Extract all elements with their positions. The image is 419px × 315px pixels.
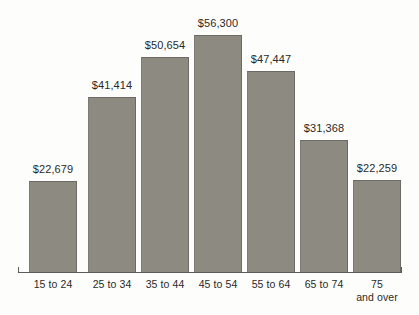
bar <box>353 180 401 272</box>
category-label-line1: 65 to 74 <box>295 278 353 291</box>
bar-value-label: $22,259 <box>353 162 401 174</box>
category-label: 25 to 34 <box>83 278 141 291</box>
category-label-line1: 45 to 54 <box>189 278 247 291</box>
x-axis-right-cap <box>401 267 402 273</box>
bar-chart: $22,679$41,414$50,654$56,300$47,447$31,3… <box>0 0 419 315</box>
category-label-line1: 15 to 24 <box>24 278 82 291</box>
category-label: 65 to 74 <box>295 278 353 291</box>
bar-value-label: $50,654 <box>141 39 189 51</box>
bar-value-label: $56,300 <box>194 17 242 29</box>
bar <box>300 140 348 272</box>
bar <box>88 97 136 272</box>
category-label-line1: 75 <box>348 278 406 291</box>
category-label: 75and over <box>348 278 406 304</box>
bar-value-label: $31,368 <box>300 122 348 134</box>
bar-value-label: $47,447 <box>247 53 295 65</box>
bar-value-label: $41,414 <box>88 79 136 91</box>
category-label: 55 to 64 <box>242 278 300 291</box>
x-axis-left-cap <box>18 267 19 273</box>
category-label-line2: and over <box>348 291 406 304</box>
plot-area: $22,679$41,414$50,654$56,300$47,447$31,3… <box>0 0 419 315</box>
bar <box>247 71 295 272</box>
bar-value-label: $22,679 <box>29 163 77 175</box>
category-label-line1: 55 to 64 <box>242 278 300 291</box>
category-label-line1: 25 to 34 <box>83 278 141 291</box>
category-label: 15 to 24 <box>24 278 82 291</box>
bar <box>29 181 77 272</box>
category-label: 45 to 54 <box>189 278 247 291</box>
bar <box>194 35 242 272</box>
category-label-line1: 35 to 44 <box>136 278 194 291</box>
category-label: 35 to 44 <box>136 278 194 291</box>
x-axis-line <box>18 272 402 273</box>
bar <box>141 57 189 272</box>
